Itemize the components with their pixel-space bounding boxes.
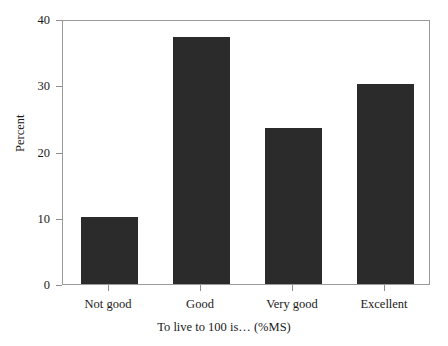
y-axis-tick-label: 20 xyxy=(38,147,51,160)
bar-excellent xyxy=(357,84,414,284)
y-axis-tick-label: 0 xyxy=(44,279,50,292)
bar-very-good xyxy=(265,128,322,284)
x-axis-tick xyxy=(108,285,109,291)
x-axis-tick-label: Not good xyxy=(85,298,132,311)
y-axis-tick xyxy=(56,285,62,286)
bar-chart-figure: Percent 010203040 Not goodGoodVery goodE… xyxy=(0,0,448,346)
x-axis-tick-label: Good xyxy=(186,298,214,311)
y-axis-tick-label: 30 xyxy=(38,80,51,93)
y-axis-tick-label: 10 xyxy=(38,213,51,226)
bar-good xyxy=(173,37,230,284)
x-axis-tick xyxy=(200,285,201,291)
plot-area xyxy=(62,20,430,285)
x-axis-title: To live to 100 is… (%MS) xyxy=(0,321,448,334)
y-axis-title: Percent xyxy=(14,115,27,152)
bar-not-good xyxy=(81,217,138,284)
x-axis-tick xyxy=(292,285,293,291)
x-axis-tick-label: Very good xyxy=(266,298,318,311)
y-axis-tick-label: 40 xyxy=(38,14,51,27)
x-axis-tick-label: Excellent xyxy=(360,298,407,311)
x-axis-tick xyxy=(384,285,385,291)
